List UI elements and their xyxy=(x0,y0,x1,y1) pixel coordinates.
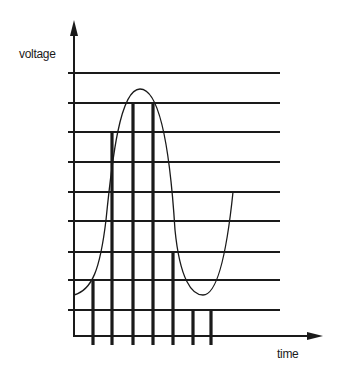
x-axis-arrow-icon xyxy=(307,332,323,340)
y-axis-arrow-icon xyxy=(70,20,78,36)
x-axis-label: time xyxy=(277,347,298,361)
sample-bars xyxy=(93,103,211,345)
y-axis-label: voltage xyxy=(19,47,56,61)
